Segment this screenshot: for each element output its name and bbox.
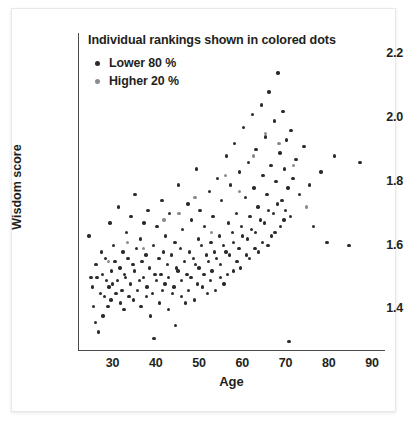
data-point (193, 298, 196, 301)
data-point (163, 282, 166, 285)
data-point (347, 244, 350, 247)
data-point (91, 285, 94, 288)
x-tick-label: 40 (136, 356, 176, 370)
data-point (177, 212, 180, 215)
data-point (222, 244, 225, 247)
data-point (238, 170, 241, 173)
data-point (113, 260, 116, 263)
x-axis-title: Age (78, 374, 385, 389)
data-point (192, 257, 195, 260)
data-point (261, 174, 264, 177)
data-point (127, 295, 130, 298)
data-point (265, 193, 268, 196)
data-point (89, 276, 92, 279)
data-point (283, 167, 286, 170)
data-point (259, 218, 262, 221)
data-point (312, 225, 315, 228)
data-point (225, 154, 228, 157)
data-point (129, 215, 132, 218)
data-point (209, 241, 212, 244)
data-point (133, 193, 136, 196)
data-point (247, 161, 250, 164)
data-point (164, 234, 167, 237)
data-point (183, 260, 186, 263)
data-point (121, 250, 124, 253)
data-point (228, 253, 231, 256)
data-point (281, 110, 284, 113)
data-point (181, 228, 184, 231)
data-point (149, 314, 152, 317)
data-point (274, 180, 277, 183)
data-point (187, 289, 190, 292)
data-point (173, 241, 176, 244)
data-point (251, 113, 254, 116)
data-point (145, 285, 148, 288)
data-point (242, 126, 245, 129)
data-point (270, 234, 273, 237)
data-point (253, 247, 256, 250)
data-point (245, 253, 248, 256)
data-point (132, 298, 135, 301)
data-point (103, 295, 106, 298)
data-point (142, 276, 145, 279)
data-point (151, 292, 154, 295)
data-point (298, 193, 301, 196)
data-point (152, 244, 155, 247)
data-point (229, 183, 232, 186)
data-point (276, 71, 279, 74)
data-point (95, 276, 98, 279)
data-point (208, 190, 211, 193)
x-tick-label: 80 (309, 356, 349, 370)
data-point (207, 260, 210, 263)
data-point (252, 154, 255, 157)
data-point (160, 199, 163, 202)
data-point (257, 250, 260, 253)
data-point (289, 215, 292, 218)
data-point (101, 314, 104, 317)
data-point (152, 337, 155, 340)
legend-label-higher-20: Higher 20 % (109, 74, 179, 88)
data-point (122, 308, 125, 311)
data-point (145, 295, 148, 298)
data-point (155, 279, 158, 282)
data-point (319, 170, 322, 173)
data-point (133, 269, 136, 272)
data-point (197, 266, 200, 269)
data-point (108, 221, 111, 224)
data-point (111, 282, 114, 285)
data-point (190, 218, 193, 221)
data-point (186, 202, 189, 205)
data-point (153, 273, 156, 276)
data-point (305, 205, 308, 208)
data-point (180, 279, 183, 282)
data-point (126, 257, 129, 260)
data-point (171, 292, 174, 295)
data-point (195, 167, 198, 170)
data-point (266, 244, 269, 247)
data-point (142, 221, 145, 224)
data-point (136, 289, 139, 292)
data-point (219, 263, 222, 266)
data-point (119, 301, 122, 304)
data-point (206, 292, 209, 295)
data-point (267, 90, 270, 93)
data-point (146, 209, 149, 212)
legend-item-lower-80: Lower 80 % (92, 54, 179, 72)
chart-legend: Lower 80 % Higher 20 % (92, 54, 179, 90)
data-point (302, 145, 305, 148)
data-point (219, 276, 222, 279)
data-point (166, 263, 169, 266)
data-point (92, 305, 95, 308)
data-point (218, 234, 221, 237)
data-point (99, 292, 102, 295)
data-point (131, 263, 134, 266)
data-point (232, 241, 235, 244)
data-point (148, 266, 151, 269)
data-point (114, 292, 117, 295)
data-point (161, 289, 164, 292)
data-point (158, 301, 161, 304)
data-point (118, 266, 121, 269)
data-point (244, 196, 247, 199)
data-point (159, 273, 162, 276)
data-point (292, 164, 295, 167)
